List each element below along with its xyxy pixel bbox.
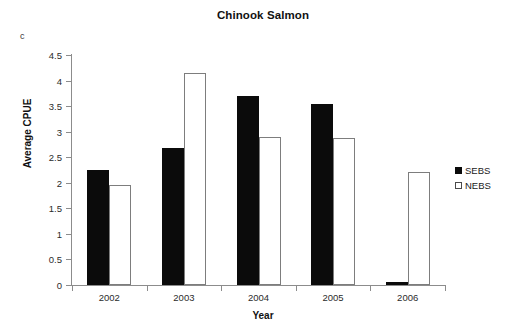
legend-swatch-icon: [455, 167, 462, 174]
y-axis-tick-label: 1.5: [22, 203, 62, 214]
x-axis-tick: [72, 286, 73, 291]
legend-item-sebs: SEBS: [455, 163, 491, 178]
legend-swatch-icon: [455, 182, 462, 189]
bar-nebs-2003: [184, 73, 206, 285]
y-axis-tick-label: 0: [22, 280, 62, 291]
x-axis-tick: [147, 286, 148, 291]
y-axis-tick: [66, 259, 71, 260]
y-axis-tick: [66, 208, 71, 209]
x-axis-tick: [370, 286, 371, 291]
panel-label: c: [20, 31, 25, 41]
bar-sebs-2006: [386, 282, 408, 285]
bar-nebs-2002: [109, 185, 131, 285]
y-axis-tick: [66, 157, 71, 158]
bar-sebs-2002: [87, 170, 109, 285]
x-axis-tick: [445, 286, 446, 291]
x-axis-category-label: 2002: [72, 292, 147, 303]
bar-nebs-2006: [408, 172, 430, 285]
y-axis-tick: [66, 81, 71, 82]
x-axis-category-label: 2004: [221, 292, 296, 303]
bar-nebs-2005: [333, 138, 355, 285]
y-axis-tick: [66, 132, 71, 133]
x-axis-tick: [296, 286, 297, 291]
chart-legend: SEBSNEBS: [455, 163, 491, 193]
x-axis-tick: [221, 286, 222, 291]
y-axis-tick-label: 1: [22, 228, 62, 239]
y-axis-tick: [66, 234, 71, 235]
y-axis-tick-label: 4.5: [22, 50, 62, 61]
legend-label: SEBS: [465, 165, 490, 176]
y-axis-tick: [66, 183, 71, 184]
y-axis-tick-label: 0.5: [22, 254, 62, 265]
bar-sebs-2005: [311, 104, 333, 285]
legend-label: NEBS: [465, 180, 491, 191]
bar-nebs-2004: [259, 137, 281, 285]
x-axis-category-label: 2006: [370, 292, 445, 303]
legend-item-nebs: NEBS: [455, 178, 491, 193]
x-axis-line: [71, 285, 446, 286]
bar-sebs-2003: [162, 148, 184, 285]
y-axis-tick: [66, 55, 71, 56]
bar-sebs-2004: [237, 96, 259, 285]
x-axis-category-label: 2005: [296, 292, 371, 303]
x-axis-category-label: 2003: [147, 292, 222, 303]
y-axis-tick: [66, 106, 71, 107]
chart-figure: c Chinook Salmon 00.511.522.533.544.5 20…: [0, 0, 526, 332]
plot-area: [72, 55, 445, 285]
y-axis-tick: [66, 285, 71, 286]
chart-title: Chinook Salmon: [0, 9, 526, 21]
y-axis-title: Average CPUE: [22, 64, 33, 204]
x-axis-title: Year: [0, 310, 526, 321]
